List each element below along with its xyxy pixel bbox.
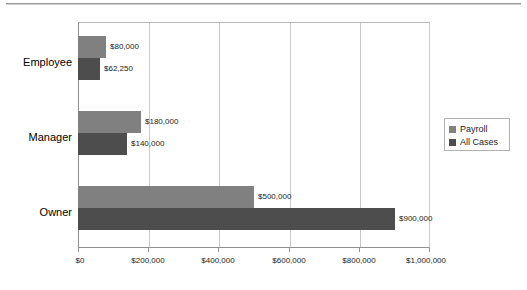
bar-manager-allcases[interactable]	[78, 133, 127, 155]
legend-item-allcases[interactable]: All Cases	[449, 136, 506, 148]
bar-employee-allcases[interactable]	[78, 58, 100, 80]
category-label-employee: Employee	[0, 56, 72, 68]
legend-label-allcases: All Cases	[460, 137, 498, 147]
xtick-label-200000: $200,000	[131, 256, 164, 266]
value-label-manager-allcases: $140,000	[131, 139, 164, 149]
value-label-owner-payroll: $500,000	[258, 192, 291, 202]
category-label-manager: Manager	[0, 131, 72, 143]
xtick-label-600000: $600,000	[272, 256, 305, 266]
bar-owner-allcases[interactable]	[78, 208, 395, 230]
xtick-mark-800000	[359, 248, 360, 252]
xtick-label-400000: $400,000	[201, 256, 234, 266]
bars-layer: $80,000 $62,250 $180,000 $140,000 $500,0…	[78, 22, 430, 248]
value-label-owner-allcases: $900,000	[399, 214, 432, 224]
bar-manager-payroll[interactable]	[78, 111, 141, 133]
bar-chart: Employee Manager Owner $80,000 $62,250 $…	[0, 0, 527, 290]
xtick-mark-200000	[148, 248, 149, 252]
xtick-mark-1000000	[429, 248, 430, 252]
header-divider-shadow	[6, 4, 521, 5]
chart-legend: Payroll All Cases	[444, 118, 510, 151]
xtick-label-1000000: $1,000,000	[406, 256, 446, 266]
value-label-manager-payroll: $180,000	[145, 117, 178, 127]
bar-employee-payroll[interactable]	[78, 36, 106, 58]
xtick-label-800000: $800,000	[342, 256, 375, 266]
legend-label-payroll: Payroll	[460, 124, 488, 134]
value-label-employee-allcases: $62,250	[104, 64, 133, 74]
xtick-mark-400000	[218, 248, 219, 252]
xtick-mark-0	[78, 248, 79, 252]
legend-swatch-icon-payroll	[449, 126, 456, 133]
legend-item-payroll[interactable]: Payroll	[449, 123, 506, 135]
bar-owner-payroll[interactable]	[78, 186, 254, 208]
category-axis: Employee Manager Owner	[0, 22, 72, 248]
xtick-mark-600000	[289, 248, 290, 252]
value-label-employee-payroll: $80,000	[110, 42, 139, 52]
xtick-label-0: $0	[76, 256, 85, 266]
legend-swatch-icon-allcases	[449, 139, 456, 146]
category-label-owner: Owner	[0, 206, 72, 218]
